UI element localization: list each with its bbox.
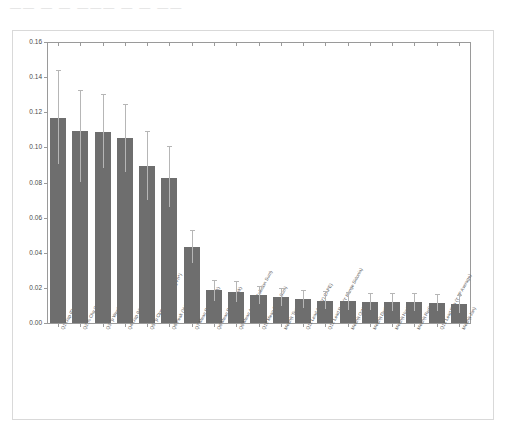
top-minor-tick bbox=[103, 43, 104, 46]
error-bar bbox=[281, 288, 282, 306]
error-bar-cap-top bbox=[167, 146, 172, 147]
y-tick-label: 0.02 bbox=[15, 284, 42, 291]
x-tick bbox=[103, 324, 104, 327]
error-bar bbox=[348, 292, 349, 310]
y-tick-label: 0.14 bbox=[15, 73, 42, 80]
bar-chart: 0.000.020.040.060.080.100.120.140.16Q1 G… bbox=[0, 0, 508, 441]
error-bar bbox=[370, 293, 371, 311]
y-tick-label: 0.16 bbox=[15, 38, 42, 45]
error-bar bbox=[325, 291, 326, 309]
y-tick-label: 0.10 bbox=[15, 143, 42, 150]
x-tick bbox=[125, 324, 126, 327]
top-minor-tick bbox=[370, 43, 371, 46]
y-axis bbox=[47, 42, 48, 324]
x-tick bbox=[214, 324, 215, 327]
error-bar bbox=[459, 295, 460, 313]
top-minor-tick bbox=[303, 43, 304, 46]
error-bar-cap-top bbox=[101, 94, 106, 95]
y-tick bbox=[44, 323, 47, 324]
error-bar bbox=[125, 104, 126, 172]
y-tick bbox=[44, 77, 47, 78]
y-tick-label: 0.04 bbox=[15, 249, 42, 256]
y-tick bbox=[44, 253, 47, 254]
top-minor-tick bbox=[147, 43, 148, 46]
x-tick bbox=[414, 324, 415, 327]
x-tick bbox=[259, 324, 260, 327]
top-minor-tick bbox=[281, 43, 282, 46]
x-tick bbox=[281, 324, 282, 327]
error-bar bbox=[103, 94, 104, 169]
error-bar-cap-top bbox=[301, 290, 306, 291]
error-bar-cap-top bbox=[78, 90, 83, 91]
top-minor-tick bbox=[169, 43, 170, 46]
top-minor-tick bbox=[437, 43, 438, 46]
x-tick bbox=[437, 324, 438, 327]
error-bar-cap-top bbox=[457, 295, 462, 296]
error-bar bbox=[192, 230, 193, 263]
x-tick bbox=[459, 324, 460, 327]
error-bar-cap-top bbox=[234, 281, 239, 282]
x-tick bbox=[80, 324, 81, 327]
error-bar bbox=[259, 286, 260, 304]
error-bar-cap-top bbox=[279, 288, 284, 289]
error-bar bbox=[236, 281, 237, 302]
top-minor-tick bbox=[58, 43, 59, 46]
top-minor-tick bbox=[125, 43, 126, 46]
top-minor-tick bbox=[214, 43, 215, 46]
y-tick bbox=[44, 42, 47, 43]
y-tick-label: 0.06 bbox=[15, 214, 42, 221]
x-tick bbox=[348, 324, 349, 327]
error-bar-cap-top bbox=[123, 104, 128, 105]
error-bar bbox=[214, 280, 215, 301]
plot-frame-right bbox=[470, 42, 471, 324]
x-tick bbox=[147, 324, 148, 327]
x-tick bbox=[236, 324, 237, 327]
x-tick bbox=[192, 324, 193, 327]
error-bar bbox=[303, 290, 304, 308]
error-bar-cap-top bbox=[212, 280, 217, 281]
error-bar-cap-top bbox=[368, 293, 373, 294]
error-bar-cap-top bbox=[257, 286, 262, 287]
error-bar bbox=[169, 146, 170, 207]
top-minor-tick bbox=[459, 43, 460, 46]
y-tick bbox=[44, 288, 47, 289]
top-minor-tick bbox=[325, 43, 326, 46]
top-minor-tick bbox=[348, 43, 349, 46]
error-bar-cap-top bbox=[435, 294, 440, 295]
y-tick-label: 0.00 bbox=[15, 319, 42, 326]
x-tick bbox=[303, 324, 304, 327]
y-tick bbox=[44, 147, 47, 148]
y-tick bbox=[44, 183, 47, 184]
error-bar bbox=[437, 294, 438, 312]
top-minor-tick bbox=[80, 43, 81, 46]
error-bar bbox=[414, 293, 415, 311]
top-minor-tick bbox=[392, 43, 393, 46]
y-tick bbox=[44, 112, 47, 113]
error-bar-cap-top bbox=[190, 230, 195, 231]
error-bar bbox=[392, 293, 393, 311]
x-tick bbox=[58, 324, 59, 327]
x-tick bbox=[392, 324, 393, 327]
x-tick bbox=[169, 324, 170, 327]
x-tick bbox=[325, 324, 326, 327]
top-minor-tick bbox=[259, 43, 260, 46]
error-bar bbox=[80, 90, 81, 181]
error-bar bbox=[147, 131, 148, 200]
error-bar-cap-top bbox=[56, 70, 61, 71]
top-minor-tick bbox=[414, 43, 415, 46]
y-tick-label: 0.08 bbox=[15, 179, 42, 186]
top-minor-tick bbox=[192, 43, 193, 46]
y-tick bbox=[44, 218, 47, 219]
top-minor-tick bbox=[236, 43, 237, 46]
error-bar bbox=[58, 70, 59, 164]
y-tick-label: 0.12 bbox=[15, 108, 42, 115]
error-bar-cap-top bbox=[323, 291, 328, 292]
error-bar-cap-top bbox=[390, 293, 395, 294]
error-bar-cap-top bbox=[412, 293, 417, 294]
error-bar-cap-top bbox=[346, 292, 351, 293]
error-bar-cap-top bbox=[145, 131, 150, 132]
x-tick bbox=[370, 324, 371, 327]
